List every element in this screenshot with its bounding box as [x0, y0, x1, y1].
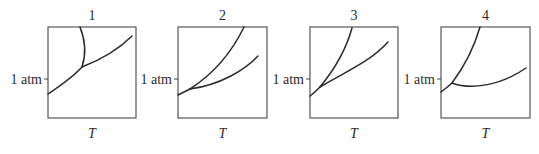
- phase-boundary-curve: [190, 56, 258, 89]
- y-tick-label: 1 atm: [273, 72, 305, 87]
- y-tick-label: 1 atm: [11, 72, 43, 87]
- phase-boundary-curve: [80, 27, 85, 67]
- phase-boundary-curve: [452, 27, 480, 83]
- phase-diagram-figure: 1 atm1T1 atm2T1 atm3T1 atm4T: [0, 0, 539, 154]
- phase-diagram-panel-3: 1 atm3T: [273, 8, 399, 141]
- x-axis-label: T: [350, 126, 359, 141]
- panel-title: 4: [482, 8, 489, 23]
- y-tick-label: 1 atm: [404, 72, 436, 87]
- plot-frame: [48, 27, 136, 118]
- x-axis-label: T: [482, 126, 491, 141]
- plot-frame: [310, 27, 398, 118]
- y-tick-label: 1 atm: [141, 72, 173, 87]
- phase-boundary-curve: [190, 27, 244, 89]
- phase-boundary-curve: [310, 87, 320, 96]
- phase-boundary-curve: [441, 83, 452, 92]
- phase-boundary-curve: [178, 89, 190, 95]
- phase-boundary-curve: [82, 36, 132, 67]
- x-axis-label: T: [88, 126, 97, 141]
- phase-diagram-panel-2: 1 atm2T: [141, 8, 268, 141]
- panel-title: 2: [219, 8, 226, 23]
- x-axis-label: T: [219, 126, 228, 141]
- phase-diagram-panel-4: 1 atm4T: [404, 8, 531, 141]
- plot-frame: [441, 27, 530, 118]
- phase-boundary-curve: [48, 67, 82, 94]
- phase-diagram-panel-1: 1 atm1T: [11, 8, 137, 141]
- panel-title: 3: [351, 8, 358, 23]
- panel-title: 1: [89, 8, 96, 23]
- phase-boundary-curve: [320, 42, 388, 87]
- plot-frame: [178, 27, 267, 118]
- phase-boundary-curve: [452, 68, 526, 86]
